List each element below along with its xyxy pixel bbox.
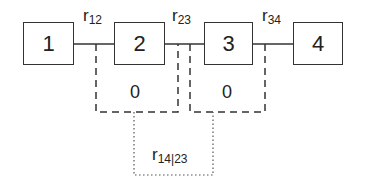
partial-correlation-label: r14|23 xyxy=(152,145,187,166)
node-2: 2 xyxy=(114,22,165,65)
node-1-label: 1 xyxy=(42,31,54,57)
node-4: 4 xyxy=(293,22,343,65)
node-2-label: 2 xyxy=(133,31,145,57)
edge-label-r23: r23 xyxy=(172,6,191,27)
edge-label-r12: r12 xyxy=(83,6,102,27)
dashed-group-1-value: 0 xyxy=(130,82,140,103)
node-4-label: 4 xyxy=(312,31,324,57)
node-3: 3 xyxy=(204,22,253,65)
node-3-label: 3 xyxy=(222,31,234,57)
edge-label-r34: r34 xyxy=(262,6,281,27)
node-1: 1 xyxy=(23,22,74,65)
dashed-group-2-value: 0 xyxy=(222,82,232,103)
